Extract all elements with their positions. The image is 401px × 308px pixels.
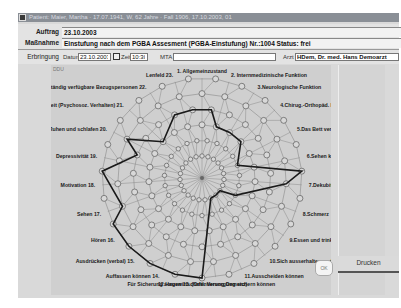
radar-node[interactable] xyxy=(171,130,177,136)
radar-node[interactable] xyxy=(188,259,194,265)
zeit-input[interactable] xyxy=(130,53,148,61)
radar-node[interactable] xyxy=(281,117,287,123)
radar-node[interactable] xyxy=(178,171,182,175)
radar-node[interactable] xyxy=(146,179,152,185)
radar-node[interactable] xyxy=(176,147,180,151)
radar-node[interactable] xyxy=(130,170,136,176)
radar-node[interactable] xyxy=(246,151,252,157)
radar-node[interactable] xyxy=(105,142,111,148)
radar-node[interactable] xyxy=(162,173,166,177)
radar-node[interactable] xyxy=(166,193,170,197)
radar-node[interactable] xyxy=(268,224,274,230)
radar-node[interactable] xyxy=(252,240,258,246)
radar-node[interactable] xyxy=(226,112,232,118)
radar-node[interactable] xyxy=(132,189,138,195)
radar-node[interactable] xyxy=(146,240,152,246)
radar-node[interactable] xyxy=(176,94,182,100)
radar-node[interactable] xyxy=(210,259,216,265)
radar-node[interactable] xyxy=(227,201,231,205)
radar-node[interactable] xyxy=(282,158,288,164)
radar-node[interactable] xyxy=(261,117,267,123)
radar-node[interactable] xyxy=(218,241,224,247)
radar-node[interactable] xyxy=(178,224,184,230)
radar-node[interactable] xyxy=(180,166,184,170)
radar-node[interactable] xyxy=(221,171,225,175)
radar-node[interactable] xyxy=(242,206,248,212)
radar-node[interactable] xyxy=(222,177,226,181)
radar-node[interactable] xyxy=(115,181,121,187)
radar-node[interactable] xyxy=(117,117,123,123)
radar-node[interactable] xyxy=(199,244,205,250)
radar-node[interactable] xyxy=(169,154,173,158)
radar-node[interactable] xyxy=(188,157,192,161)
radar-node[interactable] xyxy=(268,170,274,176)
radar-node[interactable] xyxy=(195,139,199,143)
radar-node[interactable] xyxy=(274,136,280,142)
radar-node[interactable] xyxy=(235,234,241,240)
radar-node[interactable] xyxy=(130,224,136,230)
radar-node[interactable] xyxy=(180,241,186,247)
arzt-input[interactable] xyxy=(295,53,399,61)
radar-node[interactable] xyxy=(184,161,188,165)
radar-node[interactable] xyxy=(237,183,241,187)
radar-node[interactable] xyxy=(138,207,144,213)
radar-node[interactable] xyxy=(190,212,194,216)
radar-node[interactable] xyxy=(264,152,270,158)
radar-node[interactable] xyxy=(172,201,176,205)
radar-node[interactable] xyxy=(226,271,232,277)
radar-node[interactable] xyxy=(231,154,235,158)
radar-node[interactable] xyxy=(233,252,239,258)
radar-node[interactable] xyxy=(200,154,204,158)
radar-node[interactable] xyxy=(249,222,255,228)
radar-node[interactable] xyxy=(251,260,257,266)
radar-node[interactable] xyxy=(147,164,153,170)
radar-node[interactable] xyxy=(199,122,205,128)
radar-node[interactable] xyxy=(185,141,189,145)
radar-node[interactable] xyxy=(159,83,165,89)
radar-node[interactable] xyxy=(163,183,167,187)
radar-node[interactable] xyxy=(260,207,266,213)
radar-node[interactable] xyxy=(192,228,198,234)
radar-node[interactable] xyxy=(179,183,183,187)
radar-node[interactable] xyxy=(149,193,155,199)
radar-node[interactable] xyxy=(163,234,169,240)
radar-node[interactable] xyxy=(197,198,201,202)
radar-node[interactable] xyxy=(137,117,143,123)
radar-node[interactable] xyxy=(164,163,168,167)
radar-node[interactable] xyxy=(156,206,162,212)
radar-node[interactable] xyxy=(206,155,210,159)
radar-node[interactable] xyxy=(203,198,207,202)
datum-input[interactable] xyxy=(78,53,111,61)
radar-node[interactable] xyxy=(222,94,228,100)
radar-node[interactable] xyxy=(242,122,248,128)
radar-node[interactable] xyxy=(155,103,161,109)
radar-node[interactable] xyxy=(288,221,294,227)
radar-node[interactable] xyxy=(297,195,303,201)
radar-node[interactable] xyxy=(220,224,226,230)
radar-node[interactable] xyxy=(186,193,190,197)
radar-node[interactable] xyxy=(249,193,255,199)
print-button[interactable]: Drucken xyxy=(338,256,399,273)
radar-node[interactable] xyxy=(216,161,220,165)
radar-node[interactable] xyxy=(149,222,155,228)
radar-node[interactable] xyxy=(210,212,214,216)
radar-node[interactable] xyxy=(194,155,198,159)
radar-node[interactable] xyxy=(165,216,171,222)
radar-node[interactable] xyxy=(191,196,195,200)
calendar-icon[interactable] xyxy=(113,53,120,60)
radar-node[interactable] xyxy=(200,213,204,217)
radar-node[interactable] xyxy=(213,76,219,82)
radar-node[interactable] xyxy=(233,216,239,222)
radar-node[interactable] xyxy=(255,135,261,141)
mta-input[interactable] xyxy=(173,53,276,61)
radar-node[interactable] xyxy=(262,97,268,103)
radar-node[interactable] xyxy=(152,151,158,157)
radar-node[interactable] xyxy=(185,124,191,130)
radar-node[interactable] xyxy=(136,97,142,103)
ok-button[interactable]: OK xyxy=(315,260,333,276)
radar-node[interactable] xyxy=(272,243,278,249)
radar-node[interactable] xyxy=(211,157,215,161)
radar-node[interactable] xyxy=(219,166,223,170)
radar-node[interactable] xyxy=(293,142,299,148)
radar-node[interactable] xyxy=(266,189,272,195)
